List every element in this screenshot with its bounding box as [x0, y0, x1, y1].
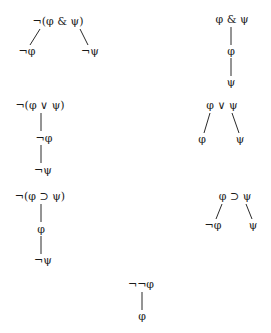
edge	[80, 29, 88, 45]
tree-conditional-left-child: ¬φ	[205, 220, 222, 232]
tree-negated-conditional-root: ¬(φ ⊃ ψ)	[15, 191, 65, 203]
edge	[204, 113, 210, 133]
tree-negated-disjunction-root: ¬(φ ∨ ψ)	[15, 100, 64, 112]
tree-disjunction-left-child: φ	[198, 134, 206, 146]
edge	[216, 204, 222, 219]
tree-negated-conjunction-left-child: ¬φ	[19, 46, 36, 58]
tree-negated-conditional-child-2: ¬ψ	[34, 255, 52, 267]
tree-conditional-right-child: ψ	[249, 220, 258, 232]
tree-negated-disjunction-child-2: ¬ψ	[34, 165, 52, 177]
tree-conjunction-child-2: ψ	[227, 77, 236, 89]
tree-disjunction-right-child: ψ	[236, 134, 245, 146]
edge	[30, 29, 40, 45]
tree-negated-conjunction-right-child: ¬ψ	[81, 46, 99, 58]
tree-conjunction-child-1: φ	[227, 46, 235, 58]
tree-negated-disjunction-child-1: ¬φ	[36, 133, 53, 145]
edge	[232, 113, 239, 133]
tree-conjunction-root: φ & ψ	[215, 14, 248, 26]
edge	[246, 204, 252, 219]
tree-conditional-root: φ ⊃ ψ	[219, 191, 252, 203]
tree-negated-conjunction-root: ¬(φ & ψ)	[33, 16, 84, 28]
tree-negated-conditional-child-1: φ	[37, 224, 45, 236]
tree-double-negation-child: φ	[138, 311, 146, 323]
tree-disjunction-root: φ ∨ ψ	[206, 100, 237, 112]
tree-double-negation-root: ¬¬φ	[128, 279, 154, 291]
